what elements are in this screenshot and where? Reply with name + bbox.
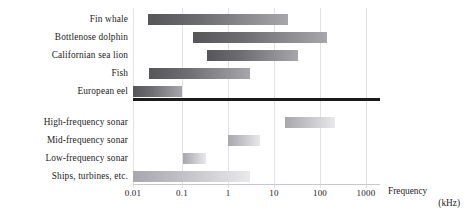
category-label-high-frequency-sonar: High-frequency sonar	[3, 117, 128, 128]
x-tick-1: 1	[226, 188, 231, 198]
category-label-fin-whale: Fin whale	[3, 14, 128, 25]
x-axis-title: Frequency (kHz)	[388, 185, 466, 209]
category-label-californian-sea-lion: Californian sea lion	[3, 50, 128, 61]
bar-ships-turbines	[133, 171, 250, 182]
x-tick-0.01: 0.01	[125, 188, 142, 198]
bar-fish	[149, 68, 250, 79]
bar-european-eel	[133, 86, 182, 97]
category-label-column: Fin whale Bottlenose dolphin Californian…	[0, 0, 128, 219]
bar-bottlenose-dolphin	[193, 32, 327, 43]
x-axis-title-name: Frequency	[388, 185, 466, 197]
x-axis-line	[133, 184, 380, 185]
bar-high-frequency-sonar	[285, 117, 335, 128]
category-label-fish: Fish	[3, 68, 128, 79]
category-label-bottlenose-dolphin: Bottlenose dolphin	[3, 32, 128, 43]
bar-low-frequency-sonar	[183, 153, 206, 164]
x-tick-100: 100	[313, 188, 327, 198]
group-divider	[133, 98, 380, 101]
category-label-european-eel: European eel	[3, 86, 128, 97]
category-label-low-frequency-sonar: Low-frequency sonar	[3, 153, 128, 164]
x-tick-1000: 1000	[357, 188, 376, 198]
bar-fin-whale	[148, 14, 288, 25]
category-label-ships-turbines: Ships, turbines, etc.	[3, 171, 128, 182]
bar-californian-sea-lion	[207, 50, 298, 61]
frequency-range-chart: Fin whale Bottlenose dolphin Californian…	[0, 0, 467, 219]
bar-mid-frequency-sonar	[228, 135, 260, 146]
x-axis-title-unit: (kHz)	[388, 197, 466, 209]
x-tick-10: 10	[269, 188, 278, 198]
category-label-mid-frequency-sonar: Mid-frequency sonar	[3, 135, 128, 146]
x-tick-0.1: 0.1	[176, 188, 188, 198]
